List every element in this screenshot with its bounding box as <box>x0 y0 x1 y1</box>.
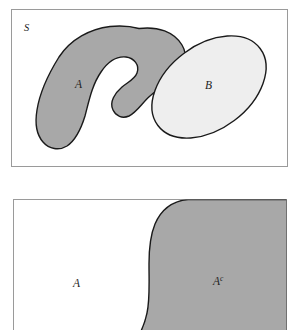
complement-panel: A Ac <box>14 200 288 330</box>
universe-label-s: S <box>24 22 30 33</box>
sets-venn-panel: S A B <box>12 10 288 167</box>
set-a-complement-shape <box>141 200 287 330</box>
set-b-label: B <box>205 79 212 91</box>
set-a-label: A <box>74 78 83 90</box>
figure-canvas: S A B A <box>0 0 301 330</box>
complement-set-a-label: A <box>72 277 81 289</box>
set-theory-figure: S A B A <box>0 0 301 330</box>
